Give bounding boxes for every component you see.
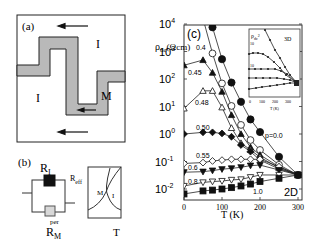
- data-point-marker: [219, 186, 225, 192]
- data-point-marker: [247, 116, 254, 123]
- data-point-marker: [200, 57, 206, 63]
- series-label-1.0: 1.0: [253, 188, 263, 195]
- panel-c-label: (c): [187, 27, 201, 41]
- series-label-0.50: 0.50: [196, 124, 210, 131]
- series-label-0.55: 0.55: [196, 152, 210, 159]
- series-label-0.4: 0.4: [196, 44, 206, 51]
- data-point-marker: [228, 79, 235, 86]
- data-point-marker: [247, 137, 254, 144]
- graph-label-m: M: [97, 189, 104, 197]
- svg-text:0: 0: [249, 99, 251, 104]
- series-label-0.45: 0.45: [188, 69, 202, 76]
- data-point-marker: [181, 191, 187, 197]
- data-point-marker: [219, 157, 226, 164]
- data-point-marker: [228, 112, 234, 118]
- data-point-marker: [181, 131, 188, 138]
- metallic-resistor: [45, 206, 55, 216]
- x-tick-label: 200: [254, 203, 266, 212]
- y-tick-label: 101: [159, 100, 175, 113]
- x-axis-label: T (K): [221, 209, 243, 221]
- data-point-marker: [295, 172, 301, 178]
- data-point-marker: [209, 50, 216, 57]
- graph-label-i: I: [112, 192, 115, 200]
- region-label-metal: M: [101, 89, 112, 103]
- y-tick-label: 102: [159, 72, 175, 85]
- data-point-marker: [237, 98, 244, 105]
- data-point-marker: [248, 181, 254, 187]
- panel-a-label: (a): [22, 20, 35, 33]
- figure: (a) I I M (b) RI Reff per RM M I T: [0, 0, 319, 251]
- panel-c: 10410310210110010-110-2 0100200300 ρdc(Ω…: [155, 8, 304, 222]
- series-label-p0: p=0.0: [265, 132, 283, 140]
- y-tick-label: 10-2: [155, 182, 174, 195]
- data-point-marker: [209, 158, 216, 165]
- data-point-marker: [229, 185, 235, 191]
- y-tick-label: 104: [159, 17, 175, 30]
- inset-3d: ρdc2 10 10 3D 0 100 200 300 T (K): [248, 29, 300, 111]
- inset-annotation: 3D: [284, 36, 292, 42]
- svg-text:300: 300: [285, 99, 291, 104]
- data-point-marker: [228, 156, 235, 163]
- y-axis-label: ρdc(Ωcm): [155, 41, 190, 54]
- data-point-marker: [219, 130, 226, 137]
- data-point-marker: [256, 128, 263, 135]
- data-point-marker: [257, 179, 263, 185]
- region-label-insulator-top: I: [96, 37, 100, 51]
- graph-xlabel: T: [113, 226, 120, 238]
- data-point-marker: [200, 159, 207, 166]
- data-point-marker: [228, 125, 234, 131]
- region-label-insulator-bottom: I: [36, 91, 40, 105]
- data-point-marker: [238, 156, 245, 163]
- r-eff-label: Reff: [70, 174, 82, 185]
- series-label-0.8: 0.8: [188, 178, 198, 185]
- data-point-marker: [219, 80, 226, 87]
- data-point-marker: [181, 160, 188, 167]
- series-label-0.6: 0.6: [188, 164, 198, 171]
- data-point-marker: [181, 183, 187, 189]
- y-tick-label: 100: [159, 127, 175, 140]
- y-tick-label: 10-1: [155, 155, 174, 168]
- svg-text:10: 10: [250, 41, 254, 46]
- data-point-marker: [238, 122, 245, 129]
- data-point-marker: [200, 188, 206, 194]
- svg-text:200: 200: [272, 99, 278, 104]
- x-tick-label: 300: [292, 203, 304, 212]
- data-point-marker: [238, 183, 244, 189]
- x-tick-label: 0: [182, 203, 186, 212]
- svg-text:100: 100: [259, 99, 265, 104]
- panel-b-label: (b): [18, 156, 31, 169]
- data-point-marker: [219, 104, 225, 110]
- data-point-marker: [209, 129, 216, 136]
- data-point-marker: [238, 131, 244, 137]
- data-point-marker: [210, 187, 216, 193]
- panel-b: (b) RI Reff per RM M I T: [18, 156, 121, 241]
- dimension-annotation: 2D: [284, 186, 298, 198]
- r-metal-label: RM: [46, 225, 61, 241]
- data-point-marker: [218, 56, 225, 63]
- r-insulating-label: RI: [40, 161, 51, 177]
- inset-xlabel: T (K): [270, 106, 280, 111]
- svg-text:10: 10: [250, 63, 254, 68]
- series-label-0.48: 0.48: [195, 99, 209, 106]
- data-point-marker: [276, 175, 282, 181]
- data-point-marker: [275, 153, 282, 160]
- panel-a: (a) I I M: [17, 15, 125, 142]
- data-point-marker: [247, 156, 254, 163]
